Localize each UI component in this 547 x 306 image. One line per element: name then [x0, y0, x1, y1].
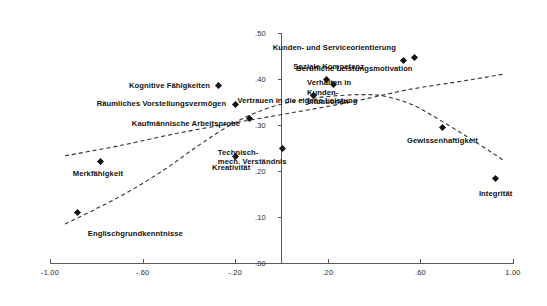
x-tick-mark [513, 259, 514, 263]
data-point-label: Merkfähigkeit [73, 169, 123, 179]
y-tick-mark [278, 33, 282, 34]
data-point-marker [411, 54, 418, 61]
y-tick-label: .20 [255, 167, 266, 176]
y-tick-mark [278, 217, 282, 218]
data-point-label: Englischgrundkenntnisse [88, 230, 183, 240]
x-tick-mark [328, 259, 329, 263]
y-tick-label: .10 [255, 213, 266, 222]
y-tick-mark [278, 171, 282, 172]
y-tick-mark [278, 263, 282, 264]
x-tick-label: .20 [322, 268, 333, 277]
x-tick-mark [50, 259, 51, 263]
data-point-label: Kognitive Fähigkeiten [129, 81, 210, 91]
data-point-marker [97, 158, 104, 165]
y-tick-mark [278, 125, 282, 126]
x-tick-label: 1.00 [505, 268, 520, 277]
data-point-marker [246, 115, 253, 122]
x-tick-mark [143, 259, 144, 263]
data-point-label: Kunden- und Serviceorientierung [273, 43, 396, 53]
x-tick-mark [235, 259, 236, 263]
y-tick-label: .40 [255, 75, 266, 84]
y-tick-label: .50 [255, 29, 266, 38]
data-point-marker [492, 175, 499, 182]
x-axis-line [50, 263, 514, 264]
data-point-marker [399, 57, 406, 64]
data-point-marker [74, 209, 81, 216]
x-tick-mark [420, 259, 421, 263]
y-tick-label: .00 [255, 259, 266, 268]
data-point-marker [439, 124, 446, 131]
x-tick-label: -.60 [136, 268, 150, 277]
data-point-label: Technisch- mech. Verständnis [218, 147, 287, 166]
x-tick-label: -1.00 [41, 268, 59, 277]
y-tick-label: .30 [255, 121, 266, 130]
x-tick-label: .60 [415, 268, 426, 277]
scatter-chart: -1.00-.60-.20.20.601.00 .00.10.20.30.40.… [0, 0, 547, 306]
plot-area: -1.00-.60-.20.20.601.00 .00.10.20.30.40.… [0, 0, 547, 306]
data-point-label: Berufliche Leistungsmotivation [296, 65, 413, 75]
data-point-label: Kaufmännische Arbeitsprobe [132, 119, 240, 129]
data-point-label: Vertrauen in die eigene Leistung [237, 96, 357, 106]
y-tick-mark [278, 79, 282, 80]
data-point-marker [215, 82, 222, 89]
data-point-label: Gewissenhaftigkeit [407, 137, 478, 147]
x-tick-label: -.20 [228, 268, 242, 277]
data-point-label: Integrität [479, 189, 513, 199]
data-point-label: Räumliches Vorstellungsvermögen [97, 100, 227, 110]
